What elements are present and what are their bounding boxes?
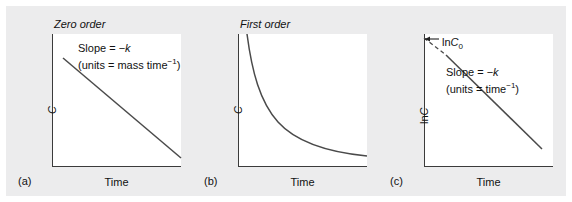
annotation-slope-line1-a: Slope = −k bbox=[78, 42, 131, 54]
annotation-slope-line2-a: (units = mass time−1) bbox=[78, 59, 180, 71]
annotation-slope-c: Slope = −k (units = time−1) bbox=[446, 66, 519, 96]
annotation-slope-line2-c: (units = time−1) bbox=[446, 83, 519, 95]
panel-letter-c: (c) bbox=[390, 175, 403, 187]
y-axis-label-b: C bbox=[232, 106, 244, 114]
figure-container: Zero order Slope = −k (units = mass time… bbox=[6, 6, 566, 196]
annotation-intercept-label-c: lnC0 bbox=[442, 36, 463, 48]
panel-zero-order: Zero order Slope = −k (units = mass time… bbox=[6, 6, 192, 196]
panel-letter-a: (a) bbox=[18, 175, 31, 187]
x-axis-label-a: Time bbox=[52, 176, 181, 188]
panel-title-a: Zero order bbox=[54, 18, 105, 30]
x-axis-label-b: Time bbox=[238, 176, 367, 188]
panel-first-order: First order C Time (b) bbox=[192, 6, 378, 196]
annotation-slope-line1-c: Slope = −k bbox=[446, 66, 499, 78]
panel-log-first-order: ——lnC0 Slope = −k (units = time−1) lnC T… bbox=[378, 6, 564, 196]
annotation-slope-a: Slope = −k (units = mass time−1) bbox=[78, 42, 180, 72]
x-axis-label-c: Time bbox=[424, 176, 553, 188]
y-axis-label-a: C bbox=[46, 106, 58, 114]
y-axis-label-c: lnC bbox=[418, 107, 430, 124]
panel-letter-b: (b) bbox=[204, 175, 217, 187]
plot-curve-b bbox=[238, 34, 367, 167]
annotation-intercept-c: ——lnC0 bbox=[420, 36, 463, 53]
panel-title-b: First order bbox=[240, 18, 290, 30]
